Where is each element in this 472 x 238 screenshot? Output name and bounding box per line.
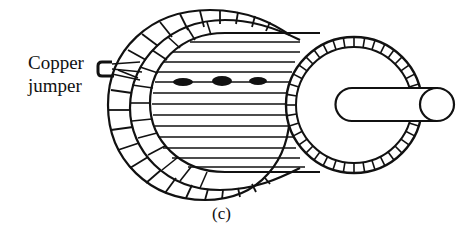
shaft: [336, 88, 455, 121]
copper-jumper-label-line2: jumper: [28, 75, 82, 97]
figure-caption: (c): [212, 204, 231, 224]
inner-ring-segments: [131, 22, 211, 188]
copper-jumper-label-line1: Copper: [28, 52, 84, 74]
bar-blobs: [173, 76, 267, 86]
rotor-drawing: [0, 0, 472, 238]
rotor-bars: [152, 42, 305, 167]
